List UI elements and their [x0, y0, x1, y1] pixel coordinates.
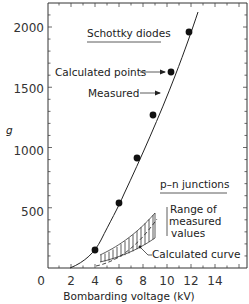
- data-point: [92, 247, 99, 254]
- pn-title: p–n junctions: [160, 178, 230, 190]
- x-tick-12: 12: [183, 274, 198, 288]
- data-point: [116, 200, 123, 207]
- schottky-title: Schottky diodes: [87, 27, 171, 39]
- range-label-2: measured: [169, 215, 221, 227]
- arrowhead-icon: [160, 70, 166, 75]
- x-tick-2: 2: [67, 274, 75, 288]
- y-tick-2000: 2000: [13, 21, 44, 35]
- y-tick-1500: 1500: [13, 82, 44, 96]
- x-tick-14: 14: [207, 274, 222, 288]
- x-tick-labels: 0 2 4 6 8 10 12 14: [37, 274, 222, 288]
- data-point: [134, 155, 141, 162]
- range-label-1: Range of: [170, 203, 217, 215]
- x-tick-0: 0: [37, 274, 45, 288]
- calculated-curve-leader: [140, 247, 152, 255]
- plot-frame: [48, 3, 247, 268]
- x-tick-8: 8: [139, 274, 147, 288]
- calculated-curve-marker: [139, 246, 142, 249]
- chart: 0 2 4 6 8 10 12 14 500 1000 1500 2000 g …: [0, 0, 249, 304]
- data-point: [168, 69, 175, 76]
- y-tick-500: 500: [21, 205, 44, 219]
- y-axis-title: g: [6, 124, 13, 136]
- range-label-3: values: [171, 227, 205, 239]
- axis-ticks: [48, 3, 247, 268]
- pn-range-band: [100, 213, 155, 262]
- calculated-points-label: Calculated points: [55, 66, 146, 78]
- data-point: [186, 29, 193, 36]
- y-tick-1000: 1000: [13, 144, 44, 158]
- calculated-curve-label: Calculated curve: [152, 248, 240, 260]
- x-axis-title: Bombarding voltage (kV): [63, 290, 194, 302]
- data-point: [150, 112, 157, 119]
- x-tick-4: 4: [91, 274, 99, 288]
- measured-label: Measured: [88, 87, 139, 99]
- y-tick-labels: 500 1000 1500 2000: [13, 21, 44, 219]
- x-tick-6: 6: [115, 274, 123, 288]
- arrowhead-icon: [155, 91, 161, 96]
- x-tick-10: 10: [159, 274, 174, 288]
